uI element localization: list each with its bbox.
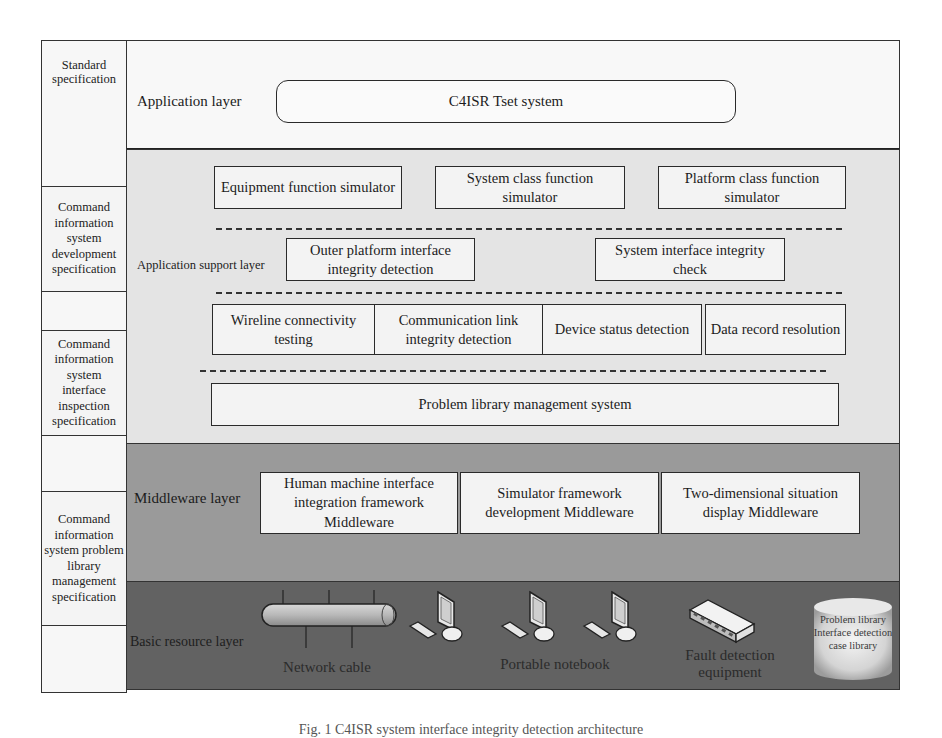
two-dimensional-situation-display-middleware: Two-dimensional situation display Middle… bbox=[661, 472, 860, 534]
spec-development: Command information system development s… bbox=[41, 186, 127, 292]
hmi-integration-framework-middleware: Human machine interface integration fram… bbox=[260, 472, 458, 534]
platform-class-function-simulator: Platform class function simulator bbox=[658, 166, 846, 209]
spec-standard: Standard specification bbox=[43, 58, 125, 86]
network-cable-label: Network cable bbox=[272, 658, 382, 676]
computer-icon bbox=[500, 590, 565, 650]
dashed-separator bbox=[216, 292, 842, 294]
spec-problem-library: Command information system problem libra… bbox=[41, 491, 127, 626]
fault-detection-equipment-label: Fault detection equipment bbox=[676, 647, 784, 681]
system-class-function-simulator: System class function simulator bbox=[435, 166, 625, 209]
computer-icon bbox=[582, 590, 647, 650]
dashed-separator bbox=[200, 370, 826, 372]
equipment-function-simulator: Equipment function simulator bbox=[214, 166, 402, 209]
basic-resource-layer-label: Basic resource layer bbox=[130, 634, 244, 650]
application-support-layer-label: Application support layer bbox=[137, 258, 265, 273]
system-interface-integrity-check: System interface integrity check bbox=[595, 238, 785, 281]
outer-platform-interface-integrity-detection: Outer platform interface integrity detec… bbox=[286, 238, 475, 281]
application-layer-label: Application layer bbox=[137, 93, 242, 110]
database-label: Problem library Interface detection case… bbox=[812, 613, 894, 652]
communication-link-integrity-detection: Communication link integrity detection bbox=[374, 304, 543, 355]
simulator-framework-development-middleware: Simulator framework development Middlewa… bbox=[460, 472, 659, 534]
spec-interface-inspection: Command information system interface ins… bbox=[41, 330, 127, 436]
problem-library-management-system: Problem library management system bbox=[211, 383, 839, 426]
dashed-separator bbox=[216, 228, 842, 230]
data-record-resolution: Data record resolution bbox=[705, 304, 846, 355]
device-status-detection: Device status detection bbox=[542, 304, 702, 355]
wireline-connectivity-testing: Wireline connectivity testing bbox=[212, 304, 375, 355]
switch-icon bbox=[688, 596, 760, 644]
c4isr-test-system: C4ISR Tset system bbox=[276, 80, 736, 123]
figure-caption: Fig. 1 C4ISR system interface integrity … bbox=[0, 722, 942, 738]
middleware-layer-label: Middleware layer bbox=[134, 490, 240, 507]
network-cable-icon bbox=[260, 590, 400, 660]
portable-notebook-label: Portable notebook bbox=[490, 655, 620, 673]
computer-icon bbox=[408, 590, 473, 650]
